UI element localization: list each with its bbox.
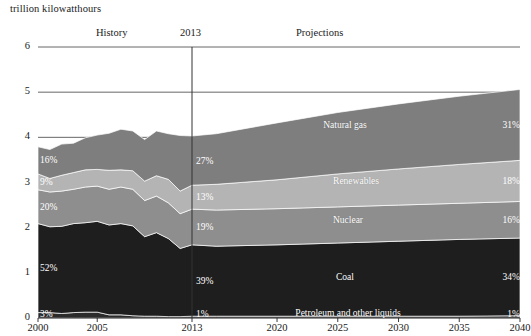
x-tick-2030: 2030 [388,322,409,333]
share-start-year-petroleum: 3% [40,309,53,319]
share-end-year-coal: 34% [503,272,520,282]
share-start-year-renewables: 9% [40,177,53,187]
share-end-year-natural-gas: 31% [503,120,520,130]
x-tick-2040: 2040 [510,322,531,333]
share-divider-year-nuclear: 19% [196,222,213,232]
series-label-renewables: Renewables [333,176,379,186]
series-label-coal: Coal [336,272,354,282]
share-divider-year-coal: 39% [196,276,213,286]
share-divider-year-renewables: 13% [196,192,213,202]
share-start-year-nuclear: 20% [40,202,57,212]
share-divider-year-natural-gas: 27% [196,156,213,166]
series-label-petroleum: Petroleum and other liquids [295,308,400,318]
x-tick-2020: 2020 [267,322,288,333]
share-start-year-natural-gas: 16% [40,155,57,165]
x-tick-2035: 2035 [449,322,470,333]
area-series-group [38,89,520,318]
share-end-year-renewables: 18% [503,176,520,186]
x-tick-2025: 2025 [327,322,348,333]
x-tick-2000: 2000 [28,322,49,333]
series-label-natural-gas: Natural gas [323,120,367,130]
share-divider-year-petroleum: 1% [196,309,209,319]
series-label-nuclear: Nuclear [333,215,363,225]
share-end-year-nuclear: 16% [503,215,520,225]
share-start-year-coal: 52% [40,263,57,273]
x-tick-2005: 2005 [87,322,108,333]
x-tick-2013: 2013 [182,322,203,333]
share-end-year-petroleum: 1% [507,309,520,319]
